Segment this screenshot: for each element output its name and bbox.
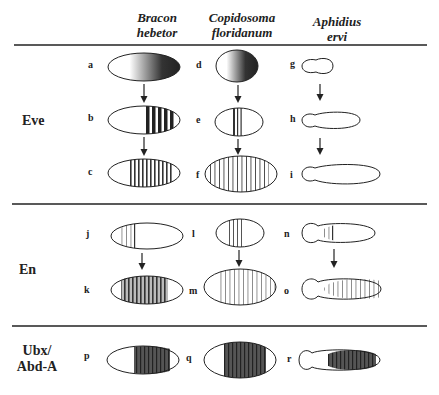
row-label-eve: Eve	[22, 113, 45, 128]
svg-text:ervi: ervi	[327, 29, 348, 44]
arrow-d-to-e	[235, 85, 242, 103]
svg-text:floridanum: floridanum	[212, 25, 273, 40]
embryo-k	[111, 274, 183, 306]
embryo-m	[204, 268, 276, 308]
embryo-b	[108, 106, 180, 134]
row-label-en: En	[19, 262, 36, 277]
panel-label-o: o	[284, 285, 289, 296]
arrow-a-to-b	[141, 84, 148, 103]
embryo-i	[302, 164, 380, 183]
svg-text:Ubx/: Ubx/	[23, 343, 53, 358]
embryo-c	[108, 159, 180, 187]
arrow-e-to-f	[235, 139, 242, 155]
svg-text:Bracon: Bracon	[136, 10, 177, 25]
panel-label-e: e	[196, 114, 201, 125]
row-label-ubx-abda: Ubx/ Abd-A	[17, 343, 58, 374]
arrow-h-to-i	[317, 138, 324, 155]
panel-label-n: n	[284, 228, 290, 239]
arrow-l-to-m	[236, 250, 243, 267]
embryo-d	[216, 50, 258, 82]
embryo-e	[215, 107, 263, 137]
embryo-p	[107, 344, 179, 376]
embryo-n	[302, 223, 375, 243]
embryo-j	[111, 220, 183, 250]
svg-text:Copidosoma: Copidosoma	[209, 10, 276, 25]
arrow-b-to-c	[141, 137, 148, 156]
embryo-g	[302, 58, 333, 73]
arrow-j-to-k	[139, 253, 146, 270]
panel-label-i: i	[290, 169, 293, 180]
panel-label-a: a	[88, 59, 93, 70]
panel-label-g: g	[290, 58, 295, 69]
panel-label-p: p	[84, 350, 90, 361]
panel-label-h: h	[290, 113, 296, 124]
panel-label-d: d	[196, 59, 202, 70]
panel-label-f: f	[196, 169, 200, 180]
panel-label-q: q	[186, 352, 192, 363]
panel-label-l: l	[192, 228, 195, 239]
svg-text:Abd-A: Abd-A	[17, 359, 58, 374]
embryo-q	[204, 340, 276, 380]
svg-text:hebetor: hebetor	[137, 25, 178, 40]
arrow-g-to-h	[317, 84, 324, 101]
panel-label-c: c	[88, 166, 93, 177]
embryo-o	[302, 279, 381, 301]
embryo-l	[216, 218, 264, 248]
arrow-n-to-o	[331, 249, 338, 268]
embryo-h	[302, 112, 360, 128]
panel-label-k: k	[84, 284, 90, 295]
column-header-copidosoma: Copidosoma floridanum	[209, 10, 276, 40]
embryo-expression-diagram: Bracon hebetor Copidosoma floridanum Aph…	[0, 0, 439, 395]
embryo-r	[299, 348, 380, 372]
svg-text:Aphidius: Aphidius	[312, 14, 361, 29]
panel-label-m: m	[189, 285, 198, 296]
panel-label-r: r	[287, 353, 292, 364]
column-header-aphidius: Aphidius ervi	[312, 14, 361, 44]
embryo-a	[108, 53, 180, 81]
panel-label-b: b	[88, 112, 94, 123]
embryo-f	[205, 152, 277, 192]
column-header-bracon: Bracon hebetor	[136, 10, 178, 40]
panel-label-j: j	[85, 228, 89, 239]
